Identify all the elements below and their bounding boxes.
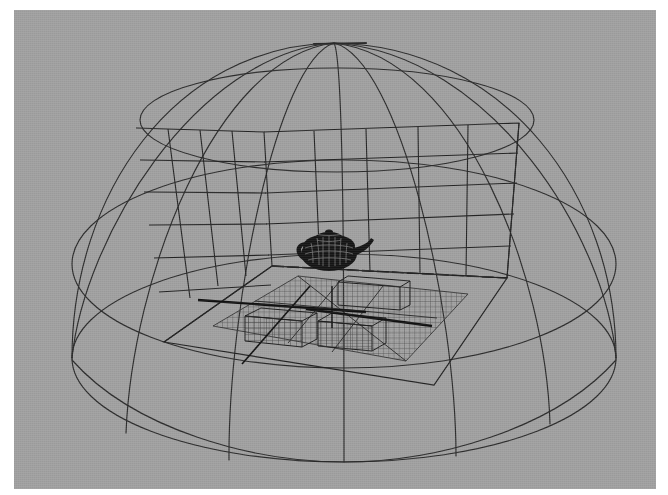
- screenshot-root: 3D wireframe scene render Hemispherical …: [0, 0, 668, 495]
- dome-apex: [314, 43, 366, 44]
- teapot-spout: [353, 238, 374, 256]
- room-back-wall-grid-h: [264, 153, 518, 255]
- wireframe-render: [14, 10, 656, 489]
- room-left-wall-grid-v: [168, 129, 246, 298]
- room-right-post: [507, 123, 519, 278]
- dome-meridian-2: [126, 43, 334, 433]
- teapot-knob: [325, 229, 333, 234]
- render-viewport[interactable]: [14, 10, 656, 489]
- teapot: [297, 229, 374, 271]
- dome-meridian-6: [334, 43, 550, 424]
